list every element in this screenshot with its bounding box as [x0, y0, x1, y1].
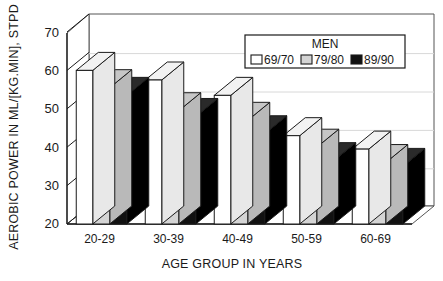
bar-20-29-69/70 — [76, 52, 115, 224]
y-tick-label-60: 60 — [45, 63, 59, 78]
y-tick-label-20: 20 — [45, 216, 59, 231]
y-axis-title: AEROBIC POWER IN ML/[KG.MIN], STPD — [7, 4, 21, 250]
category-label-60-69: 60-69 — [360, 232, 391, 246]
bar-40-49-69/70 — [214, 77, 253, 224]
bar-side-face — [300, 118, 322, 224]
legend-swatch-black-icon — [351, 55, 362, 64]
bar-front-face — [76, 70, 93, 224]
legend-entry-79-80: 79/80 — [301, 53, 344, 67]
legend-label-89-90: 89/90 — [364, 53, 394, 67]
bar-side-face — [231, 77, 253, 224]
x-axis-title: AGE GROUP IN YEARS — [162, 257, 303, 271]
chart-canvas: 20 30 40 50 60 70 AEROBIC POWER IN ML/[K… — [0, 0, 443, 281]
bar-50-59-69/70 — [283, 118, 322, 224]
category-label-30-39: 30-39 — [153, 232, 184, 246]
legend-swatch-white-icon — [251, 55, 262, 64]
category-labels: 20-2930-3940-4950-5960-69 — [84, 232, 391, 246]
legend-label-69-70: 69/70 — [264, 53, 294, 67]
y-tick-label-50: 50 — [45, 101, 59, 116]
legend-label-79-80: 79/80 — [314, 53, 344, 67]
legend-title: MEN — [312, 37, 339, 51]
bar-30-39-69/70 — [145, 62, 184, 224]
y-tick-label-40: 40 — [45, 140, 59, 155]
category-label-40-49: 40-49 — [222, 232, 253, 246]
y-tick-label-70: 70 — [45, 25, 59, 40]
legend-swatch-gray-icon — [301, 55, 312, 64]
legend-entry-69-70: 69/70 — [251, 53, 294, 67]
aerobic-power-bar-chart: 20 30 40 50 60 70 AEROBIC POWER IN ML/[K… — [0, 0, 443, 281]
y-tick-label-30: 30 — [45, 178, 59, 193]
category-label-50-59: 50-59 — [291, 232, 322, 246]
category-label-20-29: 20-29 — [84, 232, 115, 246]
bar-side-face — [93, 52, 115, 224]
bar-60-69-69/70 — [352, 131, 391, 224]
bar-side-face — [162, 62, 184, 224]
legend: MEN 69/70 79/80 89/90 — [245, 35, 405, 68]
legend-entry-89-90: 89/90 — [351, 53, 394, 67]
